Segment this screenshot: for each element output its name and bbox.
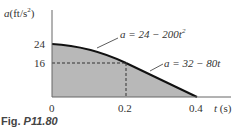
y-axis-label: a(ft/s2): [4, 7, 34, 19]
figure-caption: Fig. P11.80: [1, 115, 58, 127]
y-tick-24: 24: [34, 39, 45, 50]
annotation-curve2: a = 32 − 80t: [164, 58, 220, 69]
leader-curve2: [150, 64, 163, 71]
x-tick-0.4: 0.4: [189, 103, 203, 114]
area-fill: [52, 44, 197, 97]
x-axis-label: t (s): [214, 103, 231, 114]
y-tick-16: 16: [34, 58, 45, 69]
annotation-curve1: a = 24 − 200t2: [120, 28, 185, 40]
leader-curve1: [97, 38, 118, 48]
x-tick-0.2: 0.2: [118, 103, 132, 114]
x-tick-0: 0: [49, 103, 55, 114]
